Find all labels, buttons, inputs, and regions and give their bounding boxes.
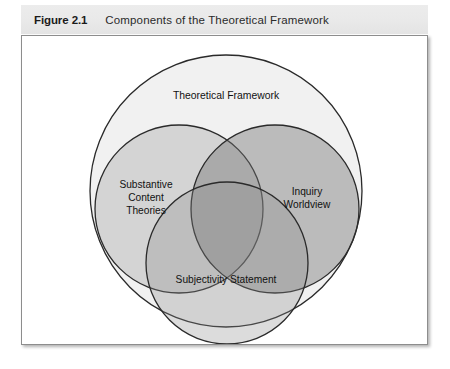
figure-title: Components of the Theoretical Framework <box>105 14 329 26</box>
figure-number: Figure 2.1 <box>34 14 87 26</box>
venn-diagram: Theoretical Framework Substantive Conten… <box>22 36 427 344</box>
label-substantive-line-2: Content <box>128 192 164 203</box>
figure-plate: Theoretical Framework Substantive Conten… <box>21 35 428 345</box>
figure-container: Figure 2.1 Components of the Theoretical… <box>0 0 450 369</box>
figure-caption: Figure 2.1 Components of the Theoretical… <box>21 5 428 34</box>
label-substantive-line-1: Substantive <box>119 179 173 190</box>
label-inquiry-line-2: Worldview <box>284 199 331 210</box>
label-theoretical-framework: Theoretical Framework <box>173 90 280 101</box>
label-inquiry-line-1: Inquiry <box>292 186 323 197</box>
label-subjectivity-statement: Subjectivity Statement <box>176 274 277 285</box>
label-substantive-line-3: Theories <box>126 205 166 216</box>
